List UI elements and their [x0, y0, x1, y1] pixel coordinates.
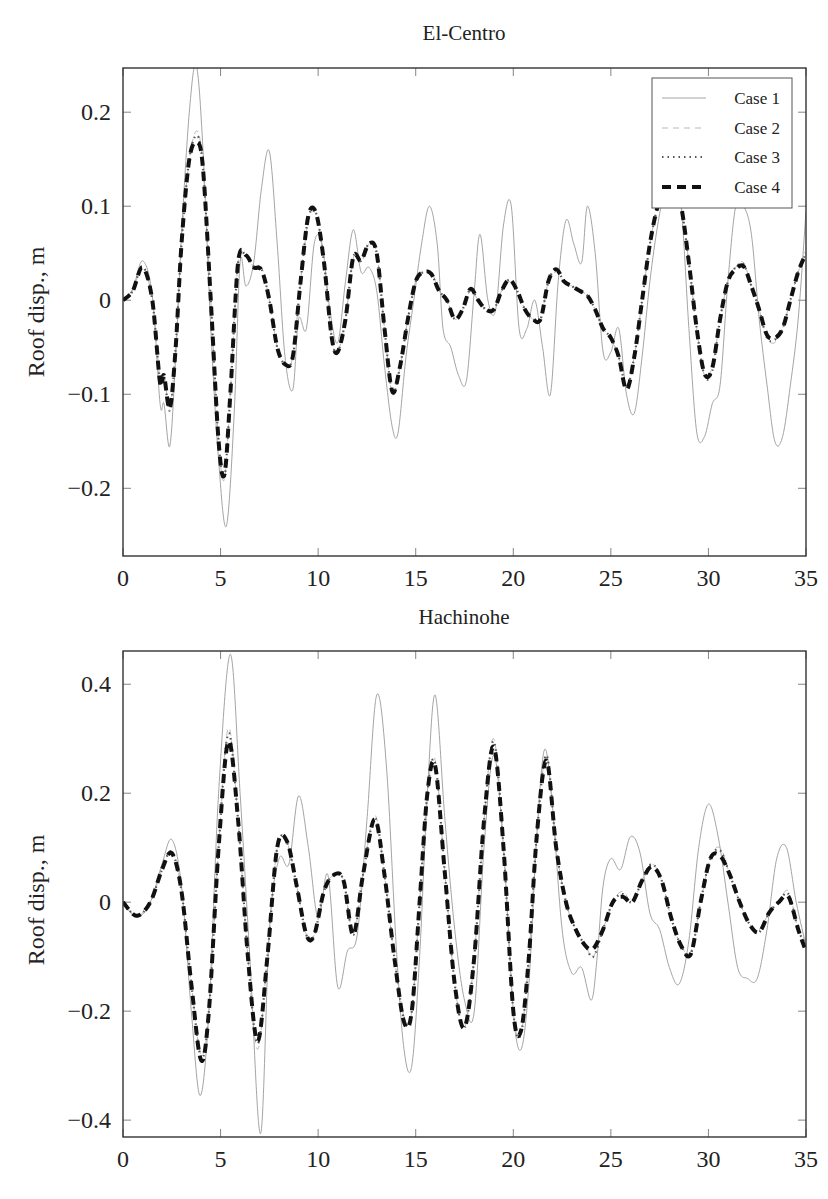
x-tick-label: 10: [306, 565, 330, 591]
x-tick-label: 0: [117, 1146, 129, 1172]
legend-label: Case 3: [734, 148, 780, 167]
legend: Case 1 Case 2 Case 3 Case 4: [652, 78, 792, 208]
legend-label: Case 2: [734, 119, 780, 138]
series-line-case-4: [123, 741, 806, 1061]
y-tick-label: 0.2: [81, 99, 111, 125]
x-tick-label: 15: [404, 565, 428, 591]
y-tick-label: 0.1: [81, 193, 111, 219]
x-tick-label: 20: [501, 1146, 525, 1172]
chart-title: Hachinohe: [419, 605, 510, 629]
x-tick-label: 15: [404, 1146, 428, 1172]
x-tick-label: 5: [215, 1146, 227, 1172]
y-tick-label: 0.4: [81, 671, 111, 697]
chart-title: El-Centro: [423, 21, 506, 45]
chart-el-centro: El-Centro Roof disp., m 05101520253035−0…: [23, 21, 818, 591]
x-tick-label: 35: [794, 1146, 818, 1172]
x-tick-label: 35: [794, 565, 818, 591]
x-tick-label: 25: [599, 565, 623, 591]
tick-labels: 05101520253035−0.4−0.200.20.4: [67, 671, 818, 1172]
y-tick-label: −0.1: [67, 381, 111, 407]
y-tick-label: −0.2: [67, 998, 111, 1024]
plot-area: [123, 654, 806, 1134]
y-tick-label: 0.2: [81, 780, 111, 806]
y-tick-label: −0.4: [67, 1107, 111, 1133]
legend-label: Case 4: [734, 178, 780, 197]
y-tick-label: 0: [99, 287, 111, 313]
axis-ticks: [123, 651, 806, 1137]
x-tick-label: 0: [117, 565, 129, 591]
x-tick-label: 20: [501, 565, 525, 591]
y-axis-label: Roof disp., m: [23, 246, 49, 377]
figure: El-Centro Roof disp., m 05101520253035−0…: [0, 0, 828, 1199]
legend-label: Case 1: [734, 89, 780, 108]
y-tick-label: 0: [99, 889, 111, 915]
x-tick-label: 10: [306, 1146, 330, 1172]
y-tick-label: −0.2: [67, 475, 111, 501]
x-tick-label: 25: [599, 1146, 623, 1172]
x-tick-label: 5: [215, 565, 227, 591]
x-tick-label: 30: [696, 1146, 720, 1172]
series-line-case-1: [123, 654, 806, 1134]
y-axis-label: Roof disp., m: [23, 834, 49, 965]
x-tick-label: 30: [696, 565, 720, 591]
chart-hachinohe: Hachinohe Roof disp., m 05101520253035−0…: [23, 605, 818, 1172]
plot-frame: [123, 651, 806, 1137]
